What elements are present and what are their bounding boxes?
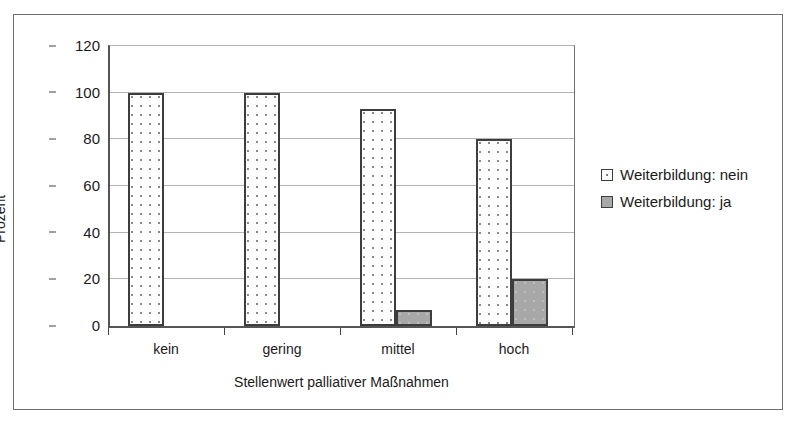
bar-group: [226, 46, 342, 326]
bar: [244, 93, 280, 326]
y-tick-mark: [49, 278, 56, 279]
legend-item: Weiterbildung: nein: [601, 161, 781, 188]
x-tick-label: gering: [263, 341, 302, 357]
x-tick-mark: [340, 328, 341, 335]
bar-group: [458, 46, 574, 326]
bar: [512, 279, 548, 326]
y-tick-mark: [49, 325, 56, 326]
y-tick-label: 100: [56, 83, 100, 100]
y-tick-label: 20: [56, 270, 100, 287]
y-tick-mark: [49, 138, 56, 139]
x-tick-mark: [224, 328, 225, 335]
x-tick-label: kein: [153, 341, 179, 357]
x-tick-mark: [456, 328, 457, 335]
x-axis-ticks: [108, 328, 575, 336]
bar-group: [342, 46, 458, 326]
x-axis-title: Stellenwert palliativer Maßnahmen: [108, 374, 575, 390]
y-axis-title: Prozent: [0, 195, 8, 243]
chart-legend: Weiterbildung: neinWeiterbildung: ja: [601, 161, 781, 215]
y-tick-label: 0: [56, 317, 100, 334]
plot-area: [108, 45, 575, 328]
x-tick-mark: [108, 328, 109, 335]
y-tick-mark: [49, 92, 56, 93]
y-tick-label: 60: [56, 177, 100, 194]
y-tick-mark: [49, 232, 56, 233]
bar: [396, 310, 432, 326]
y-tick-mark: [49, 45, 56, 46]
legend-swatch-icon: [601, 169, 613, 181]
bar-group: [110, 46, 226, 326]
legend-label: Weiterbildung: ja: [620, 193, 731, 210]
bar: [360, 109, 396, 326]
legend-item: Weiterbildung: ja: [601, 188, 781, 215]
y-tick-label: 120: [56, 37, 100, 54]
bar: [476, 139, 512, 326]
x-axis-tick-labels: keingeringmittelhoch: [108, 341, 575, 363]
y-tick-label: 40: [56, 223, 100, 240]
x-tick-label: hoch: [499, 341, 529, 357]
legend-swatch-icon: [601, 196, 613, 208]
y-axis-tick-labels: 020406080100120: [44, 45, 100, 328]
bar: [128, 93, 164, 326]
x-tick-label: mittel: [381, 341, 414, 357]
y-tick-mark: [49, 185, 56, 186]
chart-figure: 020406080100120 Prozent keingeringmittel…: [0, 0, 798, 426]
y-tick-label: 80: [56, 130, 100, 147]
x-tick-mark: [572, 328, 573, 335]
legend-label: Weiterbildung: nein: [620, 166, 748, 183]
